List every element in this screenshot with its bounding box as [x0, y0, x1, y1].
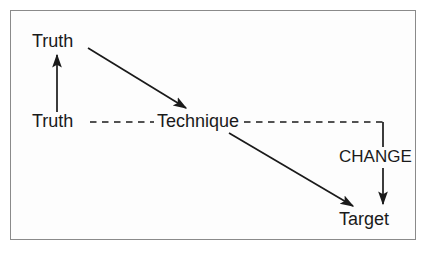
node-label-truth-left: Truth — [32, 111, 73, 131]
node-label-target: Target — [339, 209, 389, 229]
diagram-page: Truth Truth Technique CHANGE Target — [0, 0, 427, 253]
node-label-technique: Technique — [157, 111, 239, 131]
edge-technique-to-target — [229, 133, 353, 206]
node-label-truth-top: Truth — [32, 31, 73, 51]
node-label-change: CHANGE — [339, 147, 412, 167]
edge-truth-top-to-technique — [88, 48, 186, 108]
